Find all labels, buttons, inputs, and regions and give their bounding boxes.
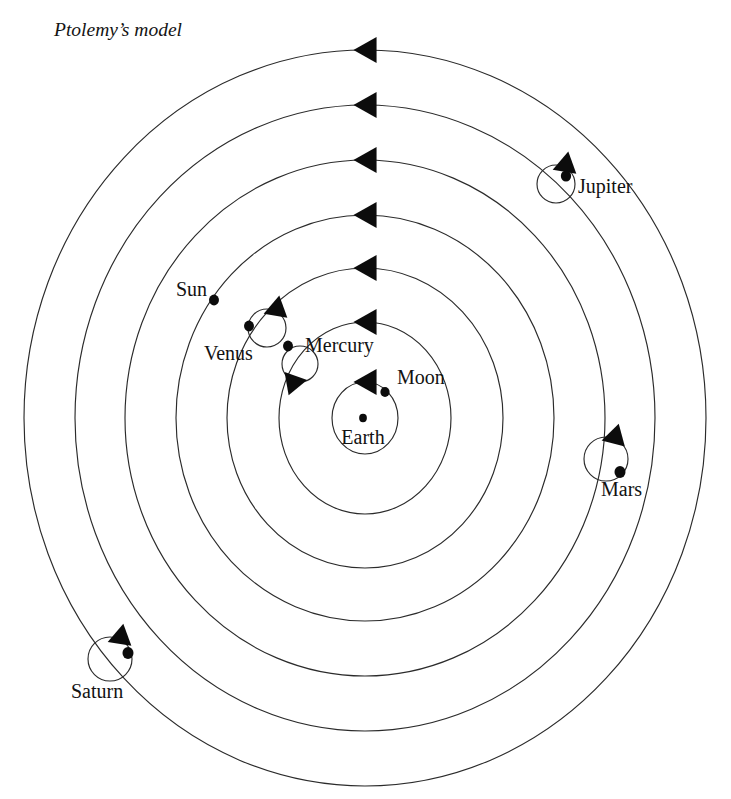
epicycle-direction-arrow-mercury xyxy=(285,372,308,395)
epicycles-group xyxy=(88,152,628,682)
orbit-direction-arrow-mercury xyxy=(353,309,376,335)
epicycle-direction-arrow-jupiter xyxy=(553,152,577,174)
ptolemy-figure: Ptolemy’s model EarthMoonMercuryVenusSun… xyxy=(0,0,731,799)
body-dot-mercury xyxy=(283,341,293,352)
body-label-saturn: Saturn xyxy=(71,680,123,702)
orbit-direction-arrow-jupiter xyxy=(353,92,376,118)
body-label-mars: Mars xyxy=(601,478,642,500)
ptolemaic-system-diagram: EarthMoonMercuryVenusSunMarsJupiterSatur… xyxy=(0,0,731,799)
body-dot-jupiter xyxy=(561,170,571,181)
orbit-direction-arrow-mars xyxy=(353,147,376,173)
body-dot-moon xyxy=(380,387,389,397)
body-label-jupiter: Jupiter xyxy=(578,175,633,198)
body-dot-earth xyxy=(359,414,367,422)
epicycle-direction-arrow-venus xyxy=(264,296,288,318)
body-dot-saturn xyxy=(122,647,133,659)
orbit-direction-arrow-moon xyxy=(353,369,376,395)
body-label-sun: Sun xyxy=(176,278,207,300)
orbit-direction-arrow-sun xyxy=(353,202,376,228)
epicycle-direction-arrow-saturn xyxy=(108,624,132,646)
body-labels-group: EarthMoonMercuryVenusSunMarsJupiterSatur… xyxy=(71,175,642,702)
body-dot-sun xyxy=(209,295,219,306)
body-dot-venus xyxy=(244,321,254,332)
body-label-moon: Moon xyxy=(397,366,445,388)
orbit-direction-arrow-saturn xyxy=(353,37,376,63)
body-label-earth: Earth xyxy=(341,426,384,448)
body-label-mercury: Mercury xyxy=(305,334,374,357)
body-dot-mars xyxy=(614,466,625,478)
orbit-direction-arrow-venus xyxy=(353,255,376,281)
body-label-venus: Venus xyxy=(204,342,253,364)
celestial-bodies-group xyxy=(122,170,625,659)
